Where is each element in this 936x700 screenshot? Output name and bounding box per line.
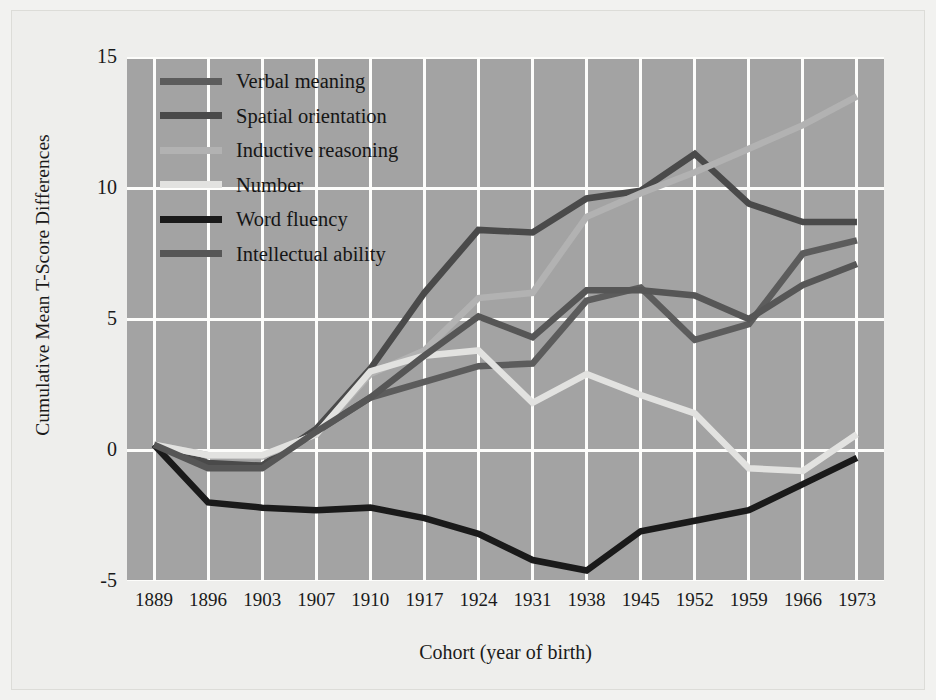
legend-item-label: Spatial orientation [236,106,387,127]
legend-item[interactable]: Word fluency [160,202,460,237]
legend-item[interactable]: Number [160,168,460,203]
y-tick-label: -5 [61,570,117,590]
legend-item[interactable]: Inductive reasoning [160,133,460,168]
series-line [154,240,857,465]
y-tick-label: 5 [61,308,117,328]
legend-item-label: Verbal meaning [236,71,365,92]
x-tick-label: 1973 [822,590,892,609]
legend-item[interactable]: Verbal meaning [160,64,460,99]
x-axis-label: Cohort (year of birth) [127,641,884,664]
chart-figure: Cumulative Mean T-Score Differences 1510… [0,0,936,700]
legend-item-label: Number [236,175,303,196]
y-tick-label: 10 [61,177,117,197]
y-axis-label: Cumulative Mean T-Score Differences [32,75,54,495]
legend-swatch-icon [160,112,222,119]
chart-legend: Verbal meaningSpatial orientationInducti… [160,64,460,271]
legend-item-label: Word fluency [236,209,348,230]
legend-item[interactable]: Intellectual ability [160,237,460,272]
y-tick-label: 0 [61,439,117,459]
y-tick-label: 15 [61,46,117,66]
legend-item-label: Intellectual ability [236,244,386,265]
legend-swatch-icon [160,181,222,188]
legend-item[interactable]: Spatial orientation [160,99,460,134]
legend-swatch-icon [160,216,222,223]
legend-swatch-icon [160,78,222,85]
series-line [154,350,857,471]
legend-swatch-icon [160,250,222,257]
legend-swatch-icon [160,147,222,154]
legend-item-label: Inductive reasoning [236,140,398,161]
